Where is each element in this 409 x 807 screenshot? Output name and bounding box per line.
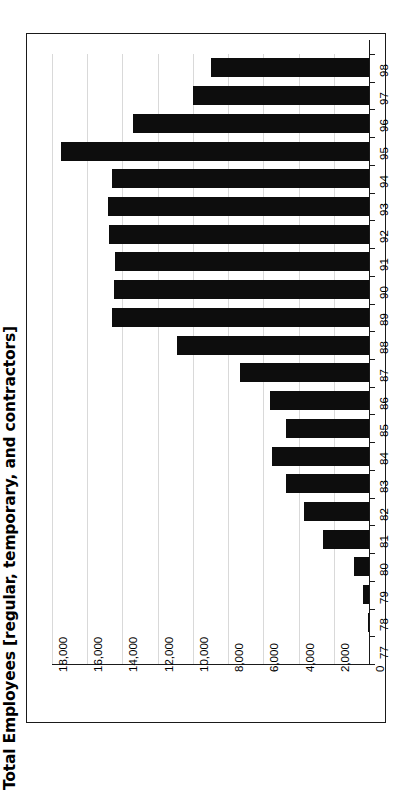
category-label-82: 82 (378, 495, 390, 521)
category-label-96: 96 (378, 106, 390, 132)
category-tick (369, 220, 375, 221)
category-label-89: 89 (378, 300, 390, 326)
category-label-83: 83 (378, 467, 390, 493)
category-label-87: 87 (378, 356, 390, 382)
bar-83 (286, 474, 369, 493)
bar-97 (193, 86, 369, 105)
category-label-84: 84 (378, 439, 390, 465)
bar-88 (177, 336, 369, 355)
category-label-94: 94 (378, 162, 390, 188)
category-label-81: 81 (378, 522, 390, 548)
category-label-95: 95 (378, 134, 390, 160)
plot-area: 7778798081828384858687888990919293949596… (52, 54, 369, 664)
category-label-93: 93 (378, 190, 390, 216)
gridline (52, 54, 53, 664)
bar-81 (323, 530, 369, 549)
value-axis-label-8000: 8,000 (233, 643, 245, 672)
category-tick (369, 525, 375, 526)
category-tick (369, 54, 375, 55)
category-label-78: 78 (378, 605, 390, 631)
category-tick (369, 137, 375, 138)
value-axis-label-14000: 14,000 (127, 637, 139, 672)
bar-89 (112, 308, 369, 327)
category-tick (369, 248, 375, 249)
bar-84 (272, 447, 369, 466)
bar-93 (108, 197, 369, 216)
value-axis-zero-line (369, 40, 370, 664)
category-tick (369, 331, 375, 332)
bar-86 (270, 391, 369, 410)
value-axis-label-2000: 2,000 (339, 643, 351, 672)
bar-94 (112, 169, 369, 188)
value-axis-label-6000: 6,000 (268, 643, 280, 672)
category-tick (369, 109, 375, 110)
bar-85 (286, 419, 369, 438)
value-axis-label-16000: 16,000 (92, 637, 104, 672)
category-label-79: 79 (378, 578, 390, 604)
bar-78 (368, 613, 369, 632)
value-axis-label-18000: 18,000 (57, 637, 69, 672)
category-tick (369, 82, 375, 83)
chart-figure: Total Employees [regular, temporary, and… (0, 0, 409, 807)
bar-90 (114, 280, 369, 299)
value-axis-label-4000: 4,000 (304, 643, 316, 672)
category-tick (369, 193, 375, 194)
category-label-85: 85 (378, 411, 390, 437)
category-tick (369, 359, 375, 360)
bar-96 (133, 114, 369, 133)
chart-title-container: Total Employees [regular, temporary, and… (0, 0, 26, 807)
category-label-91: 91 (378, 245, 390, 271)
value-axis-label-10000: 10,000 (198, 637, 210, 672)
category-label-90: 90 (378, 273, 390, 299)
category-tick (369, 636, 375, 637)
category-label-80: 80 (378, 550, 390, 576)
category-tick (369, 553, 375, 554)
bar-80 (354, 557, 369, 576)
value-axis-label-12000: 12,000 (163, 637, 175, 672)
page-title: Total Employees [regular, temporary, and… (0, 326, 20, 790)
value-axis-label-0: 0 (374, 666, 386, 672)
category-tick (369, 498, 375, 499)
category-label-97: 97 (378, 79, 390, 105)
category-label-98: 98 (378, 51, 390, 77)
bar-79 (363, 585, 369, 604)
bar-98 (211, 58, 370, 77)
category-tick (369, 414, 375, 415)
category-tick (369, 609, 375, 610)
category-tick (369, 470, 375, 471)
bar-82 (304, 502, 369, 521)
category-tick (369, 581, 375, 582)
bar-87 (240, 363, 369, 382)
bar-91 (115, 252, 369, 271)
category-tick (369, 387, 375, 388)
category-tick (369, 165, 375, 166)
plot-frame: 7778798081828384858687888990919293949596… (26, 33, 386, 723)
bar-95 (61, 142, 369, 161)
category-label-77: 77 (378, 633, 390, 659)
category-label-92: 92 (378, 217, 390, 243)
category-label-86: 86 (378, 384, 390, 410)
bar-92 (109, 225, 369, 244)
category-tick (369, 304, 375, 305)
category-label-88: 88 (378, 328, 390, 354)
category-tick (369, 442, 375, 443)
category-tick (369, 276, 375, 277)
